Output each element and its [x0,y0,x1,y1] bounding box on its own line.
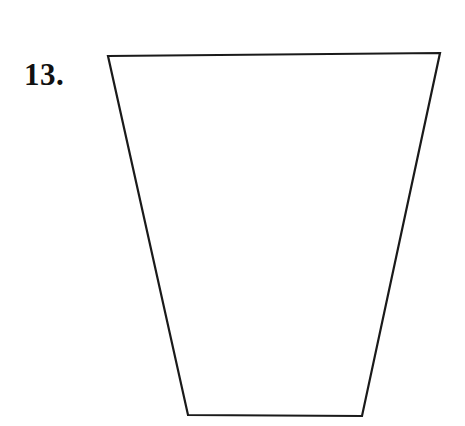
trapezoid-outline [108,53,440,416]
worksheet-figure-canvas: 13. [0,0,465,426]
trapezoid-figure [0,0,465,426]
